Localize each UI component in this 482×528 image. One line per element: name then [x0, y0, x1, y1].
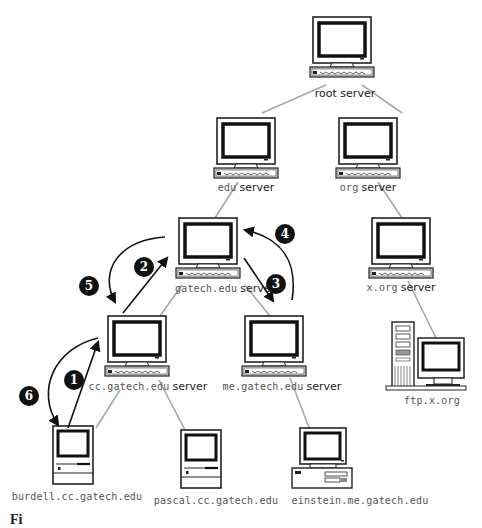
edu-server-label: edu server	[206, 181, 286, 194]
figure-caption-fragment: Fi	[10, 512, 22, 528]
pascal-host-label: pascal.cc.gatech.edu	[146, 494, 286, 506]
xorg-server-label: x.org server	[356, 281, 446, 294]
root-server-icon	[310, 17, 374, 77]
ftp-label-mono: ftp.x.org	[404, 395, 460, 406]
einstein-label-mono: einstein.me.gatech.edu	[292, 495, 429, 506]
org-label-mono: org	[340, 182, 359, 193]
org-server-icon	[336, 118, 400, 178]
xorg-label-text: server	[401, 281, 436, 294]
gatech-label-mono: gatech.edu	[175, 283, 237, 294]
burdell-label-mono: burdell.cc.gatech.edu	[12, 491, 143, 502]
xorg-label-mono: x.org	[367, 282, 398, 293]
step-badge-5: 5	[79, 276, 99, 296]
pascal-label-mono: pascal.cc.gatech.edu	[154, 495, 278, 506]
pascal-mac-icon	[181, 430, 221, 488]
einstein-host-label: einstein.me.gatech.edu	[284, 494, 436, 506]
org-server-label: org server	[328, 181, 408, 194]
step-badge-3: 3	[266, 274, 286, 294]
ftp-workstation-icon	[386, 322, 466, 390]
cc-server-icon	[105, 316, 169, 376]
me-label-text: server	[307, 380, 342, 393]
step-badge-4: 4	[275, 224, 295, 244]
edge-cc-burdell	[96, 390, 120, 428]
me-server-icon	[242, 316, 306, 376]
step-badge-2: 2	[134, 257, 154, 277]
org-label-text: server	[361, 181, 396, 194]
cc-server-label: cc.gatech.edu server	[78, 380, 218, 393]
burdell-mac-icon	[53, 426, 93, 484]
xorg-server-icon	[369, 218, 433, 278]
gatech-server-icon	[176, 218, 240, 278]
edu-label-mono: edu	[218, 182, 237, 193]
root-server-label: root server	[300, 87, 390, 100]
step-badge-6: 6	[19, 386, 39, 406]
burdell-host-label: burdell.cc.gatech.edu	[2, 490, 152, 502]
me-server-label: me.gatech.edu server	[212, 380, 352, 393]
einstein-pc-icon	[292, 428, 352, 488]
cc-label-mono: cc.gatech.edu	[89, 381, 170, 392]
cc-label-text: server	[173, 380, 208, 393]
ftp-host-label: ftp.x.org	[390, 394, 474, 406]
step-badge-1: 1	[64, 370, 84, 390]
root-label-text: root server	[315, 87, 375, 100]
me-label-mono: me.gatech.edu	[223, 381, 304, 392]
edu-label-text: server	[239, 181, 274, 194]
edu-server-icon	[214, 118, 278, 178]
